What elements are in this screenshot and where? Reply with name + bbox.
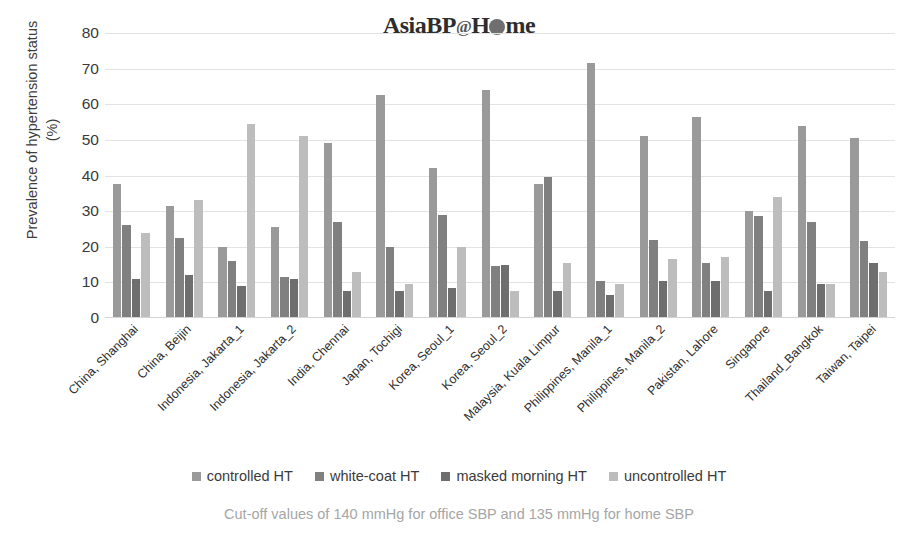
y-axis-tick-40: 40: [55, 167, 99, 185]
bar: [534, 184, 543, 318]
bar-group: [684, 33, 737, 318]
legend-swatch-icon: [315, 472, 324, 481]
bar: [807, 222, 816, 318]
bar: [501, 265, 510, 318]
y-axis-tick-60: 60: [55, 95, 99, 113]
legend-label: controlled HT: [207, 468, 293, 484]
bar: [668, 259, 677, 318]
x-axis-label-cell: Pakistan, Lahore: [684, 318, 737, 438]
chart-container: AsiaBP@Hme Prevalence of hypertension st…: [0, 0, 918, 542]
bar: [352, 272, 361, 318]
bar-group: [632, 33, 685, 318]
bar: [218, 247, 227, 318]
y-axis-tick-labels: 01020304050607080: [55, 33, 99, 318]
bar: [166, 206, 175, 318]
legend-label: masked morning HT: [456, 468, 587, 484]
bar: [544, 177, 553, 318]
bar: [247, 124, 256, 318]
legend-item[interactable]: controlled HT: [192, 468, 293, 484]
legend-item[interactable]: uncontrolled HT: [609, 468, 726, 484]
bar: [640, 136, 649, 318]
bar: [879, 272, 888, 318]
x-axis-label-cell: Taiwan, Taipei: [842, 318, 895, 438]
legend-item[interactable]: white-coat HT: [315, 468, 419, 484]
bar: [113, 184, 122, 318]
bar-groups: [105, 33, 895, 318]
bar-group: [842, 33, 895, 318]
bar: [333, 222, 342, 318]
legend-swatch-icon: [192, 472, 201, 481]
y-axis-tick-20: 20: [55, 238, 99, 256]
bar: [711, 281, 720, 318]
bar: [299, 136, 308, 318]
bar: [850, 138, 859, 318]
y-axis-tick-70: 70: [55, 60, 99, 78]
bar: [596, 281, 605, 318]
bar: [290, 279, 299, 318]
bar: [615, 284, 624, 318]
x-axis-labels: China, ShanghaiChina, BeijinIndonesia, J…: [105, 318, 895, 438]
y-axis-tick-50: 50: [55, 131, 99, 149]
chart-caption: Cut-off values of 140 mmHg for office SB…: [0, 506, 918, 522]
y-axis-tick-0: 0: [55, 309, 99, 327]
bar: [491, 266, 500, 318]
bar: [482, 90, 491, 318]
y-axis-tick-10: 10: [55, 273, 99, 291]
bar: [141, 233, 150, 319]
bar: [773, 197, 782, 318]
bar-group: [105, 33, 158, 318]
bar: [860, 241, 869, 318]
x-axis-label-cell: China, Shanghai: [105, 318, 158, 438]
legend-swatch-icon: [441, 472, 450, 481]
bar: [376, 95, 385, 318]
bar-group: [790, 33, 843, 318]
bar: [175, 238, 184, 318]
bar: [553, 291, 562, 318]
bar-group: [526, 33, 579, 318]
bar: [659, 281, 668, 318]
legend-item[interactable]: masked morning HT: [441, 468, 587, 484]
bar-group: [368, 33, 421, 318]
bar: [185, 275, 194, 318]
bar: [826, 284, 835, 318]
bar: [510, 291, 519, 318]
bar: [692, 117, 701, 318]
bar-group: [316, 33, 369, 318]
bar: [448, 288, 457, 318]
bar: [745, 211, 754, 318]
bar: [721, 257, 730, 318]
bar: [395, 291, 404, 318]
bar: [228, 261, 237, 318]
legend-label: uncontrolled HT: [624, 468, 726, 484]
bar: [343, 291, 352, 318]
bar: [386, 247, 395, 318]
bar-group: [158, 33, 211, 318]
bar: [702, 263, 711, 318]
bar-group: [579, 33, 632, 318]
legend-swatch-icon: [609, 472, 618, 481]
bar: [280, 277, 289, 318]
bar: [271, 227, 280, 318]
bar: [587, 63, 596, 318]
bar: [798, 126, 807, 318]
bar: [606, 295, 615, 318]
x-axis-label: China, Shanghai: [66, 322, 141, 397]
y-axis-tick-80: 80: [55, 24, 99, 42]
bar: [869, 263, 878, 318]
plot-area: [105, 33, 895, 318]
bar: [405, 284, 414, 318]
bar: [764, 291, 773, 318]
bar-group: [421, 33, 474, 318]
bar: [324, 143, 333, 318]
bar: [122, 225, 131, 318]
y-axis-tick-30: 30: [55, 202, 99, 220]
bar: [429, 168, 438, 318]
chart-legend: controlled HTwhite-coat HTmasked morning…: [0, 468, 918, 484]
bar-group: [263, 33, 316, 318]
bar: [817, 284, 826, 318]
bar-group: [210, 33, 263, 318]
bar: [237, 286, 246, 318]
bar: [649, 240, 658, 318]
bar-group: [474, 33, 527, 318]
bar: [563, 263, 572, 318]
